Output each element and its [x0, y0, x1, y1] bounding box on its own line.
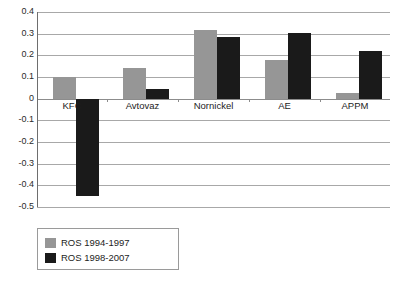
y-tick-label: -0.3 [0, 159, 34, 168]
y-tick-label: -0.2 [0, 137, 34, 146]
bar-avtovaz-ros-1998-2007 [146, 89, 169, 99]
y-tick-label: 0.4 [0, 7, 34, 16]
y-tick-label: -0.4 [0, 180, 34, 189]
bar-ae-ros-1994-1997 [265, 60, 288, 99]
legend-item-ros-1998-2007: ROS 1998-2007 [45, 251, 130, 264]
y-tick-label: 0.2 [0, 50, 34, 59]
category-label-avtovaz: Avtovaz [107, 101, 178, 111]
category-label-appm: APPM [320, 101, 390, 111]
category-label-kfc: KFC [37, 101, 107, 111]
y-tick-label: 0.3 [0, 29, 34, 38]
bar-nornickel-ros-1994-1997 [194, 30, 217, 98]
legend-swatch-icon [45, 253, 56, 263]
legend-label: ROS 1998-2007 [61, 253, 130, 263]
legend-label: ROS 1994-1997 [61, 238, 130, 248]
bar-appm-ros-1994-1997 [336, 93, 359, 98]
bar-kfc-ros-1994-1997 [53, 77, 76, 99]
legend: ROS 1994-1997 ROS 1998-2007 [37, 228, 179, 270]
bar-nornickel-ros-1998-2007 [217, 37, 240, 99]
bar-kfc-ros-1998-2007 [76, 99, 99, 197]
gridline [37, 207, 390, 208]
y-tick-label: -0.5 [0, 202, 34, 211]
y-tick-label: 0.1 [0, 72, 34, 81]
bar-chart: 0.4 0.3 0.2 0.1 0 -0.1 -0.2 -0.3 -0.4 -0… [0, 0, 402, 282]
y-axis-tick-labels: 0.4 0.3 0.2 0.1 0 -0.1 -0.2 -0.3 -0.4 -0… [0, 12, 34, 207]
category-label-ae: AE [249, 101, 320, 111]
category-label-nornickel: Nornickel [178, 101, 249, 111]
bar-appm-ros-1998-2007 [359, 51, 382, 99]
y-tick-label: 0 [0, 94, 34, 103]
bar-avtovaz-ros-1994-1997 [123, 68, 146, 98]
y-tick-label: -0.1 [0, 115, 34, 124]
legend-item-ros-1994-1997: ROS 1994-1997 [45, 236, 130, 249]
legend-swatch-icon [45, 238, 56, 248]
bar-ae-ros-1998-2007 [288, 33, 311, 99]
